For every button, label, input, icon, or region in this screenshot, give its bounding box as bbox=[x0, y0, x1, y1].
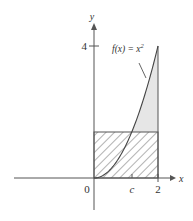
y-tick-label-4: 4 bbox=[82, 40, 88, 52]
function-label-text: f(x) = x bbox=[112, 44, 141, 55]
x-tick-label-2: 2 bbox=[155, 183, 161, 195]
shaded-region bbox=[132, 46, 158, 132]
hatched-rectangle bbox=[94, 132, 158, 178]
y-axis-arrow-icon bbox=[91, 23, 97, 30]
x-tick-label-c: c bbox=[130, 183, 135, 195]
area-diagram: y x 4 0 c 2 f(x) = x2 bbox=[0, 0, 193, 221]
function-label-exponent: 2 bbox=[141, 42, 145, 49]
label-leader-line bbox=[139, 63, 146, 78]
y-axis-label: y bbox=[89, 11, 95, 22]
x-axis-label: x bbox=[178, 173, 184, 184]
x-axis-arrow-icon bbox=[170, 175, 176, 181]
y-axis bbox=[89, 23, 99, 210]
x-tick-label-0: 0 bbox=[84, 183, 90, 195]
function-label: f(x) = x2 bbox=[112, 42, 145, 55]
